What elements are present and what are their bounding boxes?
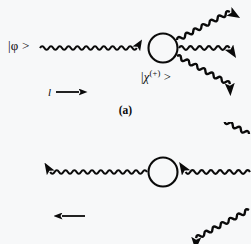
incoming-wave-b-middle	[186, 170, 250, 174]
outgoing-wave-a-middle	[179, 46, 230, 50]
scattering-circle-b	[149, 158, 178, 187]
incoming-state-ket-a: |φ >	[8, 38, 30, 54]
incoming-wave-b-upper	[195, 122, 250, 136]
outgoing-wave-a-lower	[176, 54, 231, 85]
outgoing-wave-b	[50, 170, 147, 174]
incoming-wave-b-lower	[195, 208, 250, 239]
panel-caption-a: (a)	[0, 104, 251, 116]
ket-superscript-a: (+)	[149, 68, 160, 78]
panel-b: |φ > |χ(−) > l (b)	[0, 122, 251, 244]
scattering-circle-a	[149, 34, 178, 63]
ell-label-a: l	[48, 86, 51, 98]
panel-a: |φ > |χ(+) > l (a)	[0, 0, 251, 122]
ket-suffix-a: >	[160, 70, 171, 84]
scattering-diagram-figure: |φ > |χ(+) > l (a)	[0, 0, 251, 244]
scattering-state-ket-a: |χ(+) >	[141, 68, 171, 85]
panel-b-graphics	[0, 122, 251, 244]
outgoing-wave-a-upper	[176, 10, 231, 41]
incoming-wave-a	[40, 46, 137, 50]
